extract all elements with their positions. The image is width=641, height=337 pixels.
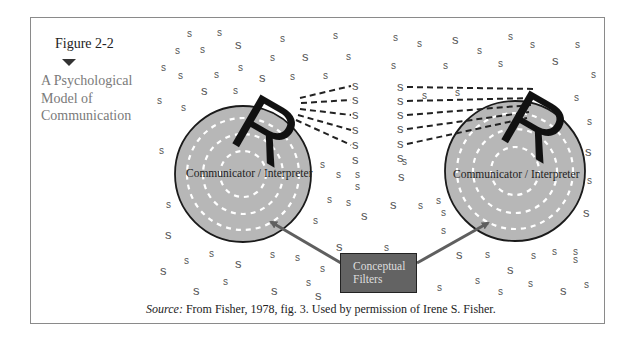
stimulus-s: s — [528, 279, 533, 289]
stimulus-s: s — [327, 195, 332, 205]
stimulus-s: s — [315, 289, 322, 302]
stimulus-s: s — [217, 28, 222, 38]
stimulus-s: s — [333, 31, 338, 41]
stimulus-s: s — [475, 276, 480, 286]
stimulus-s: s — [200, 45, 205, 55]
stimulus-s: s — [159, 146, 164, 156]
stimulus-s: s — [201, 84, 208, 97]
stimulus-s: s — [175, 46, 180, 56]
stimulus-s: s — [452, 33, 459, 46]
stimulus-s: s — [160, 264, 167, 277]
source-prefix: Source: — [146, 302, 183, 316]
stimulus-s: s — [270, 250, 275, 260]
stimulus-s: s — [417, 39, 422, 49]
attended-s: s — [397, 94, 404, 107]
stimulus-s: s — [346, 52, 351, 62]
stimulus-s: s — [573, 255, 578, 265]
filter-arrow-left — [271, 222, 341, 263]
stimulus-s: s — [193, 284, 200, 297]
source-caption: Source: From Fisher, 1978, fig. 3. Used … — [146, 302, 496, 317]
stimulus-s: s — [306, 278, 311, 288]
stimulus-s: s — [585, 145, 592, 158]
stimulus-s: s — [214, 70, 219, 80]
stimulus-s: s — [508, 32, 513, 42]
stimulus-s: s — [355, 182, 360, 192]
stimulus-s: s — [455, 88, 460, 98]
source-text: From Fisher, 1978, fig. 3. Used by permi… — [183, 302, 496, 316]
stimulus-s: s — [187, 29, 192, 39]
stimulus-s: s — [235, 257, 242, 270]
filter-box-line: Filters — [353, 273, 416, 286]
stimulus-s: s — [397, 151, 404, 164]
attended-s: s — [352, 79, 359, 92]
stimulus-s: s — [390, 198, 397, 211]
communicator-label-left: Communicator / Interpreter — [186, 167, 312, 179]
stimulus-s: s — [443, 61, 448, 71]
stimulus-s: s — [575, 40, 580, 50]
stimulus-s: s — [355, 170, 360, 180]
conceptual-filters-box: Conceptual Filters — [340, 253, 417, 293]
stimulus-s: s — [161, 63, 166, 73]
stimulus-s: s — [436, 196, 441, 206]
stimulus-s: s — [320, 264, 325, 274]
attended-s: s — [352, 93, 359, 106]
stimulus-s: s — [574, 93, 579, 103]
attended-s: s — [397, 122, 404, 135]
stimulus-s: s — [393, 33, 398, 43]
stimulus-s: s — [441, 208, 446, 218]
stimulus-s: s — [259, 71, 266, 84]
stimulus-s: s — [352, 153, 359, 166]
stimulus-s: s — [531, 251, 536, 261]
stimulus-s: s — [313, 216, 318, 226]
filter-arrow-right — [417, 223, 488, 263]
communicator-label-right: Communicator / Interpreter — [453, 168, 579, 180]
stimulus-s: s — [270, 53, 275, 63]
stimulus-s: s — [238, 63, 243, 73]
stimulus-s: s — [587, 176, 592, 186]
attended-s: s — [352, 138, 359, 151]
stimulus-s: s — [552, 247, 557, 257]
attended-s: s — [397, 137, 404, 150]
stimulus-s: s — [323, 71, 328, 81]
stimulus-s: s — [437, 283, 442, 293]
stimulus-s: s — [477, 46, 482, 56]
stimulus-s: s — [418, 201, 423, 211]
stimulus-s: s — [398, 170, 405, 183]
stimulus-s: s — [591, 70, 596, 80]
stimulus-s: s — [584, 280, 589, 290]
stimulus-s: s — [384, 243, 389, 253]
attended-s: s — [397, 80, 404, 93]
stimulus-s: s — [302, 50, 309, 63]
filter-box-line: Conceptual — [353, 260, 416, 273]
stimulus-s: s — [165, 228, 172, 241]
stimulus-s: s — [233, 86, 238, 96]
stimulus-s: s — [498, 59, 503, 69]
stimulus-s: s — [336, 170, 341, 180]
stimulus-s: s — [361, 209, 368, 222]
stimulus-s: s — [587, 117, 592, 127]
stimulus-s: s — [552, 54, 559, 67]
stimulus-s: s — [441, 226, 446, 236]
stimulus-s: s — [346, 198, 351, 208]
attended-s: s — [352, 123, 359, 136]
stimulus-s: s — [320, 160, 325, 170]
stimulus-s: s — [184, 256, 189, 266]
stimulus-s: s — [498, 287, 503, 297]
stimulus-s: s — [507, 263, 514, 276]
stimulus-s: s — [336, 240, 343, 253]
stimulus-s: s — [391, 61, 396, 71]
stimulus-s: s — [181, 103, 186, 113]
stimulus-s: s — [209, 249, 214, 259]
stimulus-s: s — [583, 206, 590, 219]
stimulus-s: s — [157, 96, 162, 106]
stimulus-s: s — [223, 277, 228, 287]
stimulus-s: s — [280, 34, 285, 44]
attended-s: s — [352, 108, 359, 121]
stimulus-s: s — [178, 71, 183, 81]
stimulus-s: s — [530, 40, 535, 50]
stimulus-s: s — [295, 253, 300, 263]
stimulus-s: s — [560, 284, 567, 297]
stimulus-s: s — [166, 200, 171, 210]
stimulus-s: s — [422, 91, 427, 101]
stimulus-s: s — [485, 250, 490, 260]
